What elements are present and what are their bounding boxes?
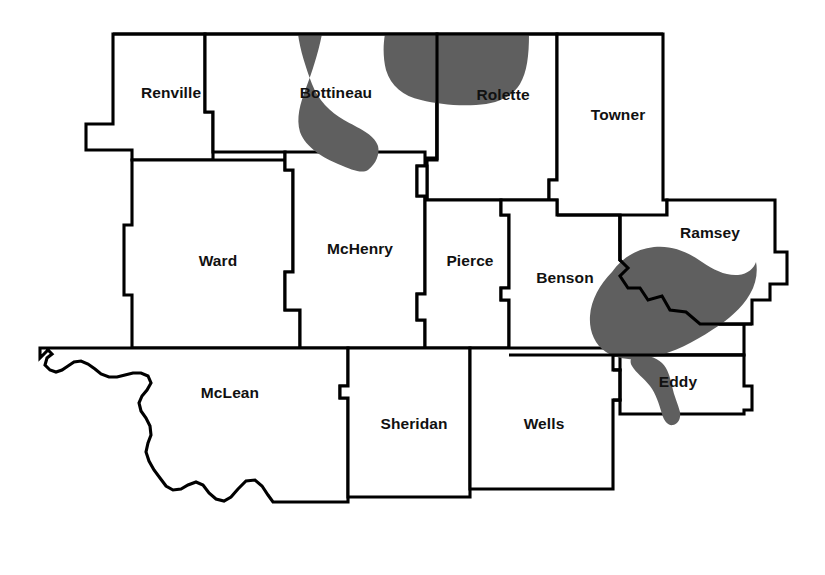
county-shape-sheridan[interactable]: [340, 348, 470, 497]
county-shape-wells[interactable]: [470, 348, 620, 489]
county-shape-ward[interactable]: [124, 160, 300, 348]
county-shape-mchenry[interactable]: [285, 152, 425, 348]
map-canvas: [0, 0, 825, 575]
county-shape-mclean[interactable]: [40, 348, 348, 502]
county-map: Renville Bottineau Rolette Towner Ward M…: [0, 0, 825, 575]
county-shape-renville[interactable]: [86, 34, 213, 160]
